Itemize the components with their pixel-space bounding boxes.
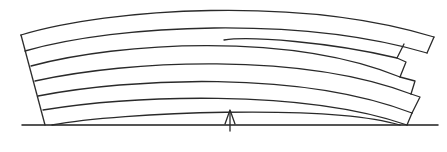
up-arrow-icon bbox=[225, 110, 235, 131]
board-1-top bbox=[21, 10, 434, 37]
board-4-bottom bbox=[38, 81, 412, 113]
stacked-boards-diagram bbox=[0, 0, 447, 152]
board-1-bottom bbox=[25, 28, 427, 53]
board-4-end bbox=[411, 94, 420, 113]
board-3-bottom bbox=[35, 64, 411, 94]
board-1-inner bbox=[224, 39, 397, 58]
board-2-end bbox=[397, 44, 406, 77]
board-1-end bbox=[427, 37, 434, 53]
board-5-end bbox=[407, 113, 412, 125]
